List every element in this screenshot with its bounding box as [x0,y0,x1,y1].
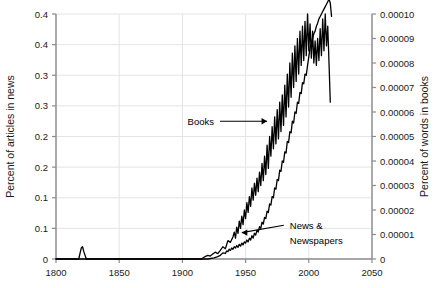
x-tick-label: 2000 [298,267,319,278]
y-tick-label-left: 0.4 [35,9,48,20]
y-tick-label-left: 0.2 [35,162,48,173]
y-tick-label-right: 0.00001 [380,229,414,240]
x-tick-label: 1800 [45,267,66,278]
y-tick-label-right: 0.00004 [380,156,414,167]
chart-svg: 180018501900195020002050 00.10.10.20.20.… [0,0,440,288]
y-axis-left-tick-labels: 00.10.10.20.20.30.30.40.4 [35,9,48,265]
y-tick-label-right: 0.00009 [380,33,414,44]
y-tick-label-right: 0.00003 [380,180,414,191]
tick-marks [52,14,376,263]
y-tick-label-left: 0.1 [35,192,48,203]
x-axis-tick-labels: 180018501900195020002050 [45,267,382,278]
y-tick-label-left: 0.1 [35,223,48,234]
y-tick-label-left: 0.4 [35,39,48,50]
y-tick-label-right: 0.00005 [380,131,414,142]
chart-figure: 180018501900195020002050 00.10.10.20.20.… [0,0,440,288]
y-tick-label-right: 0.00002 [380,205,414,216]
x-tick-label: 1850 [109,267,130,278]
y-tick-label-right: 0.00008 [380,58,414,69]
annotation-arrow-line [242,225,284,232]
y-tick-label-left: 0.3 [35,70,48,81]
annotation-label: News & [290,220,323,231]
annotation-label: Books [188,116,215,127]
series-annotations: BooksNews &Newspapers [188,116,343,246]
annotation-label: Newspapers [290,235,343,246]
y-axis-right-tick-labels: 00.000010.000020.000030.000040.000050.00… [380,9,414,265]
x-tick-label: 1950 [235,267,256,278]
y-tick-label-right: 0 [380,254,385,265]
y-tick-label-left: 0 [43,254,48,265]
annotation-arrow-head [242,229,248,235]
x-tick-label: 1900 [172,267,193,278]
y-tick-label-left: 0.3 [35,100,48,111]
y-tick-label-left: 0.2 [35,131,48,142]
y-axis-right-title: Percent of words in books [418,76,430,197]
y-tick-label-right: 0.00007 [380,82,414,93]
x-tick-label: 2050 [361,267,382,278]
y-tick-label-right: 0.00010 [380,9,414,20]
y-axis-left-title: Percent of articles in news [4,75,16,198]
y-tick-label-right: 0.00006 [380,107,414,118]
annotation-arrow-head [262,118,268,124]
